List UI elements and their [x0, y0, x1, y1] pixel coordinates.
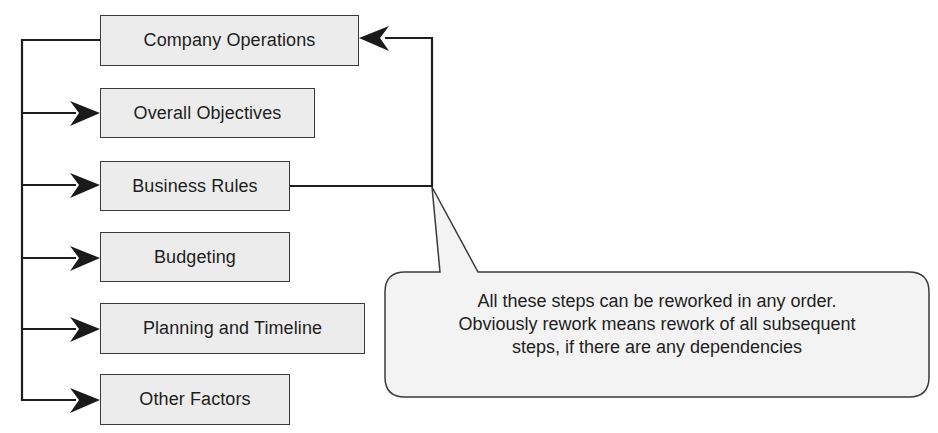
step-box-other-factors: Other Factors: [100, 374, 290, 425]
callout-text: All these steps can be reworked in any o…: [392, 290, 922, 359]
step-box-budgeting: Budgeting: [100, 232, 290, 282]
callout-line: steps, if there are any dependencies: [392, 336, 922, 359]
step-label: Other Factors: [139, 389, 250, 410]
callout-line: Obviously rework means rework of all sub…: [392, 313, 922, 336]
step-label: Planning and Timeline: [143, 318, 322, 339]
step-box-planning-and-timeline: Planning and Timeline: [100, 303, 365, 354]
step-label: Overall Objectives: [134, 103, 282, 124]
arrow-left-icon: [359, 26, 389, 51]
left-trunk-line: [22, 40, 100, 400]
callout-line: All these steps can be reworked in any o…: [392, 290, 922, 313]
step-box-company-operations: Company Operations: [100, 15, 359, 66]
step-label: Budgeting: [154, 247, 236, 268]
step-label: Business Rules: [132, 176, 257, 197]
step-box-overall-objectives: Overall Objectives: [100, 88, 315, 138]
step-box-business-rules: Business Rules: [100, 161, 290, 211]
step-label: Company Operations: [144, 30, 316, 51]
